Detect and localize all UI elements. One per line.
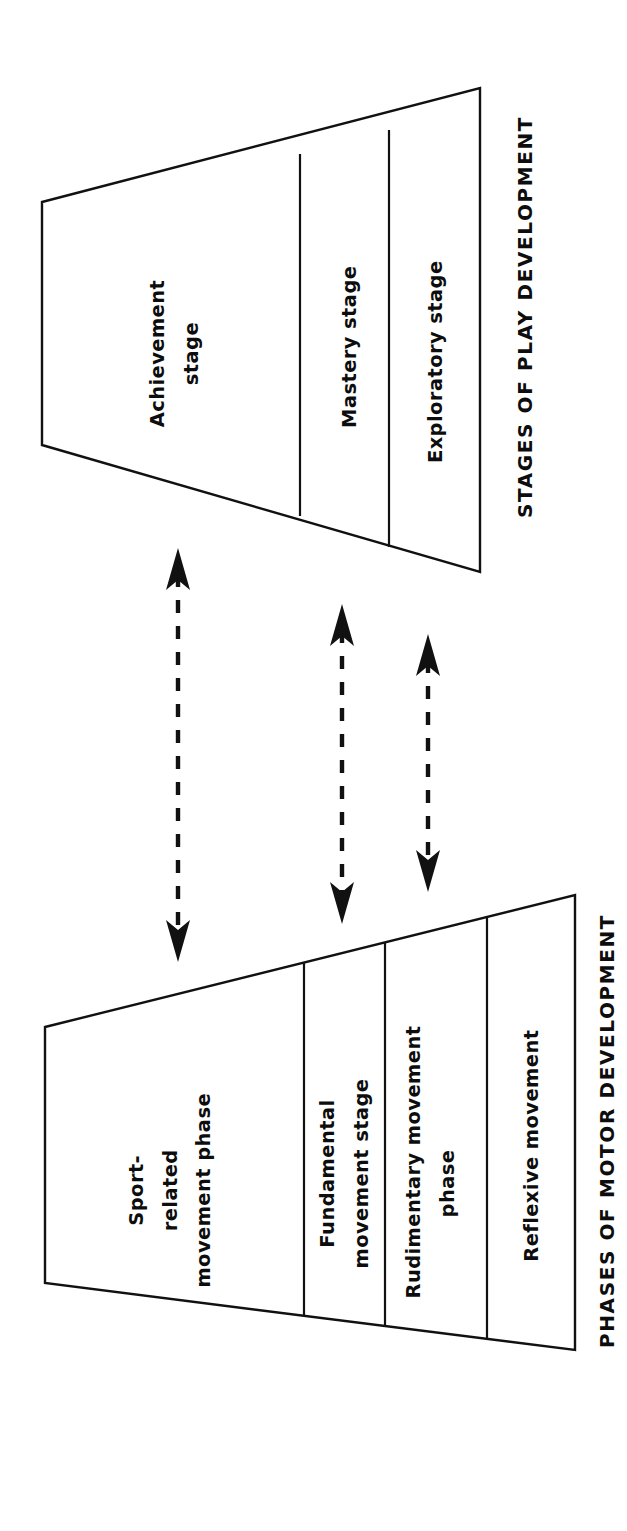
connector-mastery-to-fundamental <box>330 604 354 924</box>
arrow-head-down <box>330 882 354 924</box>
motor-development-outline <box>45 895 575 1350</box>
arrow-head-down <box>416 850 440 892</box>
connector-achievement-to-sport-related <box>166 548 190 962</box>
arrow-head-down <box>166 920 190 962</box>
connector-exploratory-to-rudimentary <box>416 634 440 892</box>
play-development-outline <box>42 88 480 572</box>
motor-development-shape <box>45 895 575 1350</box>
diagram-vector-layer <box>0 0 627 1531</box>
figure-canvas: Achievement stage Mastery stage Explorat… <box>0 0 627 1531</box>
play-development-shape <box>42 88 480 572</box>
